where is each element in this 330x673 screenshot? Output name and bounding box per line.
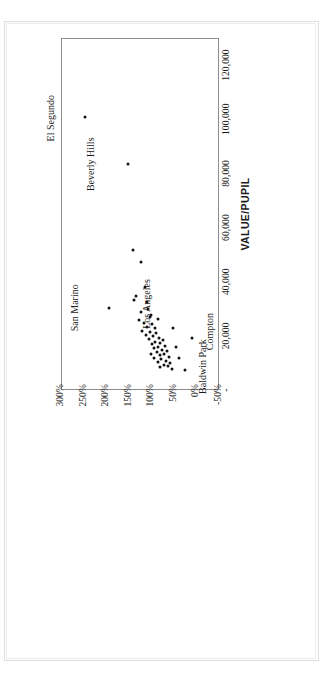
data-point xyxy=(139,260,142,263)
data-point xyxy=(153,327,156,330)
y-axis-tick-label: 100% xyxy=(147,384,157,436)
point-annotation: San Marino xyxy=(70,284,80,331)
data-point xyxy=(191,336,194,339)
data-point xyxy=(141,329,144,332)
data-point xyxy=(166,365,169,368)
x-axis-tick-label: 80,000 xyxy=(222,160,232,187)
x-axis-tick-label: 120,000 xyxy=(222,49,232,81)
data-point xyxy=(167,355,170,358)
data-point xyxy=(163,363,166,366)
data-point xyxy=(170,367,173,370)
data-point xyxy=(147,337,150,340)
data-point xyxy=(153,347,156,350)
data-point xyxy=(165,350,168,353)
x-axis-tick-label: 40,000 xyxy=(222,268,232,295)
data-point xyxy=(135,294,138,297)
plot-area: El SegundoBeverly HillsSan MarinoLos Ang… xyxy=(61,38,219,390)
x-axis-tick-label: - xyxy=(222,388,232,391)
data-point xyxy=(158,341,161,344)
y-axis-tick-label: 0% xyxy=(192,384,202,436)
point-annotation: Los Angeles xyxy=(142,279,152,329)
data-point xyxy=(137,318,140,321)
point-annotation: Beverly Hills xyxy=(86,137,96,191)
data-point xyxy=(160,348,163,351)
x-axis-tick-label: 20,000 xyxy=(222,322,232,349)
data-point xyxy=(163,344,166,347)
data-point xyxy=(161,339,164,342)
data-point xyxy=(131,248,134,251)
data-point xyxy=(107,306,110,309)
data-point xyxy=(127,163,130,166)
data-point xyxy=(83,115,86,118)
point-annotation: El Segundo xyxy=(46,95,56,141)
y-axis-tick-label: -50% xyxy=(214,384,224,436)
data-point xyxy=(174,346,177,349)
y-axis-tick-label: 50% xyxy=(169,384,179,436)
x-axis-title: VALUE/PUPIL xyxy=(239,38,251,390)
data-point xyxy=(159,366,162,369)
data-point xyxy=(150,343,153,346)
data-point xyxy=(178,356,181,359)
data-point xyxy=(156,360,159,363)
data-point xyxy=(152,335,155,338)
data-point xyxy=(171,327,174,330)
data-point xyxy=(160,358,163,361)
data-point xyxy=(164,359,167,362)
point-annotation: Compton xyxy=(205,313,215,350)
data-point xyxy=(154,340,157,343)
data-point xyxy=(183,369,186,372)
x-axis-tick-label: 100,000 xyxy=(222,103,232,135)
data-point xyxy=(149,352,152,355)
data-point xyxy=(133,298,136,301)
scatter-chart: El SegundoBeverly HillsSan MarinoLos Ang… xyxy=(59,26,269,486)
y-axis-tick-label: 200% xyxy=(101,384,111,436)
data-point xyxy=(155,332,158,335)
data-point xyxy=(157,336,160,339)
data-point xyxy=(156,346,159,349)
data-point xyxy=(158,354,161,357)
data-point xyxy=(169,362,172,365)
data-point xyxy=(157,317,160,320)
y-axis-tick-label: 250% xyxy=(79,384,89,436)
y-axis-tick-label: 150% xyxy=(124,384,134,436)
data-point xyxy=(149,331,152,334)
x-axis-tick-label: 60,000 xyxy=(222,214,232,241)
data-point xyxy=(152,356,155,359)
data-point xyxy=(162,352,165,355)
data-point xyxy=(144,333,147,336)
y-axis-tick-label: 300% xyxy=(56,384,66,436)
